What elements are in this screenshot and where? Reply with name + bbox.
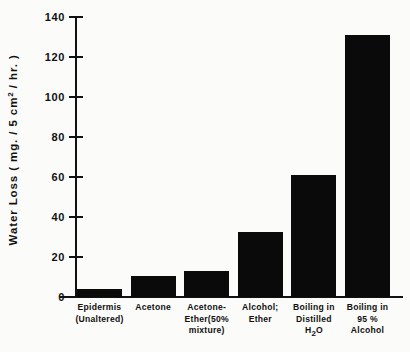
y-axis-tick-label: 0 [23,291,65,303]
bar [77,289,122,297]
y-axis-tick-label: 60 [23,171,65,183]
y-axis-tick-label: 140 [23,11,65,23]
bar [238,232,283,297]
y-axis-title-superscript: 2 [6,92,15,96]
x-axis-category-label: Boiling in95 %Alcohol [336,302,399,337]
y-axis-title-tail: / hr. ) [8,54,20,92]
y-axis-tick-label: 80 [23,131,65,143]
y-axis-tick-label: 120 [23,51,65,63]
y-axis-title-text: Water Loss ( mg. / 5 cm2 / hr. ) [6,54,20,245]
x-axis-category-label-line: Alcohol [336,325,399,337]
bar [291,175,336,297]
y-axis-title-lead: Water Loss ( mg. / 5 cm [8,97,20,246]
bar [131,276,176,297]
y-axis-tick-label: 40 [23,211,65,223]
y-axis-tick-label: 20 [23,251,65,263]
x-axis-category-label-line: (Unaltered) [68,314,131,326]
y-axis-tick-label: 100 [23,91,65,103]
x-axis-category-label-line: Boiling in [336,302,399,314]
bar [184,271,229,297]
x-axis-category-label-line: mixture) [175,325,238,337]
bar [345,35,390,297]
x-axis-category-label-line: 95 % [336,314,399,326]
chart-figure: Water Loss ( mg. / 5 cm2 / hr. ) 1401201… [0,0,410,352]
